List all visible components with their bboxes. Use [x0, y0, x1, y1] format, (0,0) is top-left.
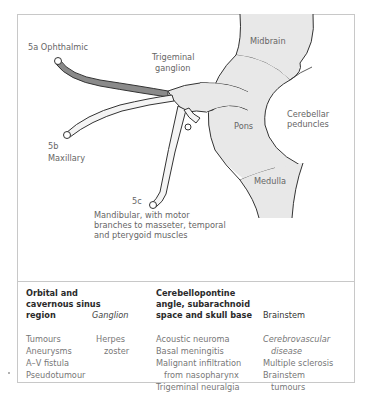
table-cell: Malignant infiltration — [156, 357, 241, 369]
col-ganglion-cells: Herpes zoster — [96, 333, 129, 357]
table-cell: Cerebrovascular — [263, 333, 333, 345]
ophthalmic-nerve — [56, 60, 168, 97]
maxillary-nerve — [66, 95, 174, 137]
header-line: space and skull base — [156, 310, 252, 321]
col-header-brainstem: Brainstem — [263, 310, 305, 321]
label-cerebellar-2: peduncles — [287, 119, 329, 129]
table-cell: Trigeminal neuralgia — [156, 381, 241, 393]
label-maxillary: Maxillary — [48, 153, 85, 163]
header-line: Cerebellopontine — [156, 288, 252, 299]
label-pons: Pons — [234, 121, 253, 131]
col-header-cerebellopontine: Cerebellopontine angle, subarachnoid spa… — [156, 288, 252, 321]
table-cell: Herpes — [96, 333, 129, 345]
label-mandibular-num: 5c — [132, 196, 142, 206]
col-header-orbital: Orbital and cavernous sinus region — [26, 288, 101, 321]
label-mandibular-3: and pterygoid muscles — [94, 230, 187, 240]
table-cell: from nasopharynx — [156, 369, 241, 381]
label-midbrain: Midbrain — [250, 36, 286, 46]
header-line: region — [26, 310, 101, 321]
col-brainstem-cells: Cerebrovascular disease Multiple scleros… — [263, 333, 333, 393]
table-cell: Multiple sclerosis — [263, 357, 333, 369]
table-cell: zoster — [96, 345, 129, 357]
label-trigeminal-ganglion-2: ganglion — [155, 63, 190, 73]
label-cerebellar-1: Cerebellar — [287, 109, 329, 119]
col-orbital-cells: Tumours Aneurysms A–V fistula Pseudotumo… — [26, 333, 85, 381]
header-line: cavernous sinus — [26, 299, 101, 310]
table-cell: A–V fistula — [26, 357, 85, 369]
header-line: Orbital and — [26, 288, 101, 299]
table-cell: Pseudotumour — [26, 369, 85, 381]
table-cell: disease — [263, 345, 333, 357]
header-line: angle, subarachnoid — [156, 299, 252, 310]
col-header-ganglion: Ganglion — [92, 310, 129, 321]
label-mandibular-1: Mandibular, with motor — [94, 210, 190, 220]
table-cell: Brainstem — [263, 369, 333, 381]
table-cell: Aneurysms — [26, 345, 85, 357]
label-trigeminal-ganglion-1: Trigeminal — [152, 52, 194, 62]
header-line: Ganglion — [92, 310, 129, 321]
label-medulla: Medulla — [254, 176, 286, 186]
mandibular-nerve — [152, 106, 186, 207]
label-ophthalmic: 5a Ophthalmic — [28, 42, 88, 52]
table-cell: Tumours — [26, 333, 85, 345]
header-line: Brainstem — [263, 310, 305, 321]
table-cell: Acoustic neuroma — [156, 333, 241, 345]
table-cell: Basal meningitis — [156, 345, 241, 357]
label-maxillary-num: 5b — [48, 141, 58, 151]
label-mandibular-2: branches to masseter, temporal — [94, 220, 226, 230]
col-cerebellopontine-cells: Acoustic neuroma Basal meningitis Malign… — [156, 333, 241, 393]
table-cell: tumours — [263, 381, 333, 393]
